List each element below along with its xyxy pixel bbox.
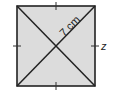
square-diagram: 7 cm z <box>0 0 113 95</box>
side-variable-label: z <box>100 40 107 52</box>
